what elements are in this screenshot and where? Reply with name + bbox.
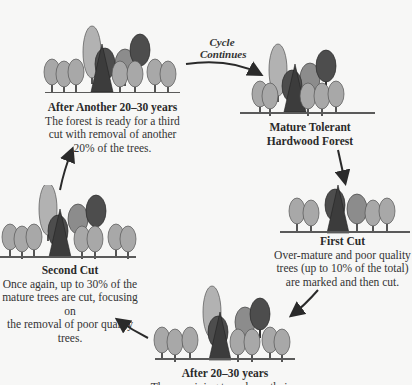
- arrow-to-mature: [186, 62, 260, 74]
- arrow-to-after-another: [60, 150, 72, 190]
- arrow-to-first-cut: [338, 150, 345, 182]
- arrow-to-after-20-30: [292, 290, 318, 315]
- arrow-to-second-cut: [118, 320, 148, 338]
- cycle-arrows: [0, 0, 412, 385]
